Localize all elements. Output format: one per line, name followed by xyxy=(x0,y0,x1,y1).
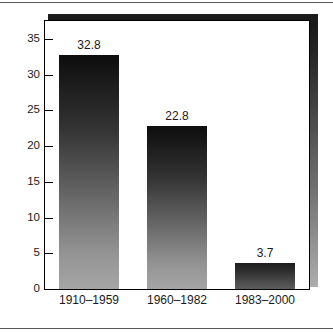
x-axis-category-label: 1960–1982 xyxy=(147,294,207,306)
y-axis-tick-label: 30 xyxy=(27,69,40,81)
x-axis-category-label: 1983–2000 xyxy=(235,294,295,306)
bar: 22.8 xyxy=(147,126,207,289)
y-axis-tick-label: 0 xyxy=(34,283,40,295)
y-axis-tick xyxy=(45,182,53,183)
y-axis-tick xyxy=(45,289,53,290)
y-axis-tick-label: 25 xyxy=(27,105,40,117)
y-axis-tick-label: 5 xyxy=(34,248,40,260)
bar-chart-figure: 0510152025303532.822.83.7 1910–19591960–… xyxy=(0,0,333,332)
bar: 3.7 xyxy=(235,263,295,289)
y-axis-tick-label: 35 xyxy=(27,33,40,45)
bar: 32.8 xyxy=(59,55,119,289)
y-axis-tick-label: 15 xyxy=(27,176,40,188)
bar-value-label: 32.8 xyxy=(77,39,100,51)
plot-area: 0510152025303532.822.83.7 xyxy=(45,21,309,289)
y-axis-tick-label: 20 xyxy=(27,140,40,152)
top-divider-rule xyxy=(0,2,333,3)
y-axis-tick xyxy=(45,218,53,219)
bar-value-label: 3.7 xyxy=(257,247,274,259)
bottom-divider-rule xyxy=(0,328,333,329)
y-axis-tick xyxy=(45,110,53,111)
y-axis-tick xyxy=(45,39,53,40)
y-axis-tick xyxy=(45,253,53,254)
y-axis-tick xyxy=(45,75,53,76)
y-axis-tick-label: 10 xyxy=(27,212,40,224)
x-axis-category-label: 1910–1959 xyxy=(59,294,119,306)
bar-value-label: 22.8 xyxy=(165,110,188,122)
y-axis-tick xyxy=(45,146,53,147)
